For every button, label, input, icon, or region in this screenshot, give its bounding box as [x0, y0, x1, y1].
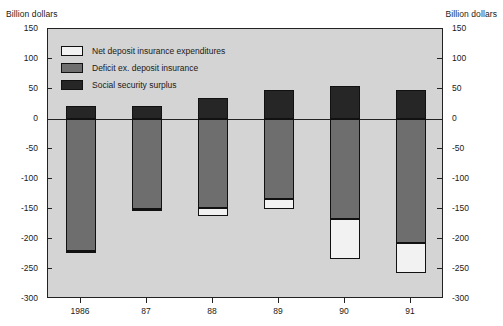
x-tick-mark-87: [146, 298, 147, 303]
y-tick-label-right-7: -200: [452, 234, 486, 242]
bar-segment-social-security-surplus-91: [396, 90, 426, 119]
y-tick-label-left-4: -50: [4, 144, 38, 152]
bar-segment-social-security-surplus-90: [330, 86, 360, 119]
y-tick-mark-right-8: [437, 268, 442, 269]
x-tick-mark-91: [410, 298, 411, 303]
legend-label-ndi: Net deposit insurance expenditures: [92, 46, 225, 56]
y-tick-mark-left-8: [47, 268, 52, 269]
legend-swatch-social: [61, 80, 83, 90]
bar-segment-social-security-surplus-88: [198, 98, 228, 119]
x-tick-label-91: 91: [405, 306, 414, 316]
legend-swatch-ndi: [61, 46, 83, 56]
bar-segment-social-security-surplus-1986: [66, 106, 96, 119]
x-tick-label-90: 90: [339, 306, 348, 316]
y-tick-mark-right-2: [437, 88, 442, 89]
y-tick-label-right-8: -250: [452, 264, 486, 272]
y-tick-label-left-1: 100: [4, 54, 38, 62]
zero-line: [48, 119, 442, 120]
bar-segment-deficit-ex-deposit-insurance-90: [330, 119, 360, 219]
bar-group-90: [330, 29, 360, 297]
y-tick-label-left-6: -150: [4, 204, 38, 212]
legend-label-social: Social security surplus: [92, 80, 177, 90]
bar-segment-deficit-ex-deposit-insurance-89: [264, 119, 294, 199]
x-tick-label-87: 87: [141, 306, 150, 316]
x-tick-mark-90: [344, 298, 345, 303]
y-tick-mark-left-6: [47, 208, 52, 209]
bar-segment-deficit-ex-deposit-insurance-91: [396, 119, 426, 243]
y-tick-mark-left-4: [47, 148, 52, 149]
y-tick-mark-left-1: [47, 58, 52, 59]
x-tick-label-89: 89: [273, 306, 282, 316]
y-tick-label-left-5: -100: [4, 174, 38, 182]
y-tick-label-right-5: -100: [452, 174, 486, 182]
x-tick-mark-1986: [80, 298, 81, 303]
y-tick-label-right-3: 0: [452, 114, 486, 122]
y-axis-title-right: Billion dollars: [445, 9, 497, 19]
bar-segment-social-security-surplus-87: [132, 106, 162, 119]
legend-swatch-deficit: [61, 63, 83, 73]
legend-item-social: Social security surplus: [61, 79, 291, 92]
y-tick-mark-left-7: [47, 238, 52, 239]
bar-segment-deficit-ex-deposit-insurance-88: [198, 119, 228, 208]
y-tick-label-left-0: 150: [4, 24, 38, 32]
y-axis-title-left: Billion dollars: [6, 9, 58, 19]
y-tick-mark-left-2: [47, 88, 52, 89]
bar-segment-deficit-ex-deposit-insurance-87: [132, 119, 162, 209]
y-tick-label-right-0: 150: [452, 24, 486, 32]
y-tick-mark-right-1: [437, 58, 442, 59]
y-tick-label-left-2: 50: [4, 84, 38, 92]
y-tick-mark-right-7: [437, 238, 442, 239]
y-tick-label-left-9: -300: [4, 294, 38, 302]
y-tick-mark-left-5: [47, 178, 52, 179]
x-tick-mark-89: [278, 298, 279, 303]
bar-segment-net-deposit-insurance-expenditures-90: [330, 219, 360, 259]
x-tick-label-88: 88: [207, 306, 216, 316]
bar-segment-deficit-ex-deposit-insurance-1986: [66, 119, 96, 251]
chart-legend: Net deposit insurance expendituresDefici…: [61, 45, 291, 96]
y-tick-label-right-2: 50: [452, 84, 486, 92]
y-tick-label-left-3: 0: [4, 114, 38, 122]
legend-item-deficit: Deficit ex. deposit insurance: [61, 62, 291, 75]
y-tick-label-right-6: -150: [452, 204, 486, 212]
x-tick-label-1986: 1986: [71, 306, 90, 316]
y-tick-mark-right-4: [437, 148, 442, 149]
bar-segment-net-deposit-insurance-expenditures-88: [198, 208, 228, 216]
y-tick-label-left-8: -250: [4, 264, 38, 272]
y-tick-label-right-1: 100: [452, 54, 486, 62]
y-tick-label-right-9: -300: [452, 294, 486, 302]
bar-segment-net-deposit-insurance-expenditures-91: [396, 243, 426, 273]
y-tick-label-left-7: -200: [4, 234, 38, 242]
legend-item-ndi: Net deposit insurance expenditures: [61, 45, 291, 58]
bar-segment-net-deposit-insurance-expenditures-89: [264, 199, 294, 209]
legend-label-deficit: Deficit ex. deposit insurance: [92, 63, 198, 73]
x-tick-mark-88: [212, 298, 213, 303]
bar-segment-net-deposit-insurance-expenditures-87: [132, 209, 162, 211]
chart-container: Billion dollars Billion dollars Net depo…: [0, 0, 503, 326]
y-tick-mark-right-5: [437, 178, 442, 179]
y-tick-label-right-4: -50: [452, 144, 486, 152]
bar-group-91: [396, 29, 426, 297]
y-tick-mark-right-6: [437, 208, 442, 209]
bar-segment-net-deposit-insurance-expenditures-1986: [66, 251, 96, 253]
